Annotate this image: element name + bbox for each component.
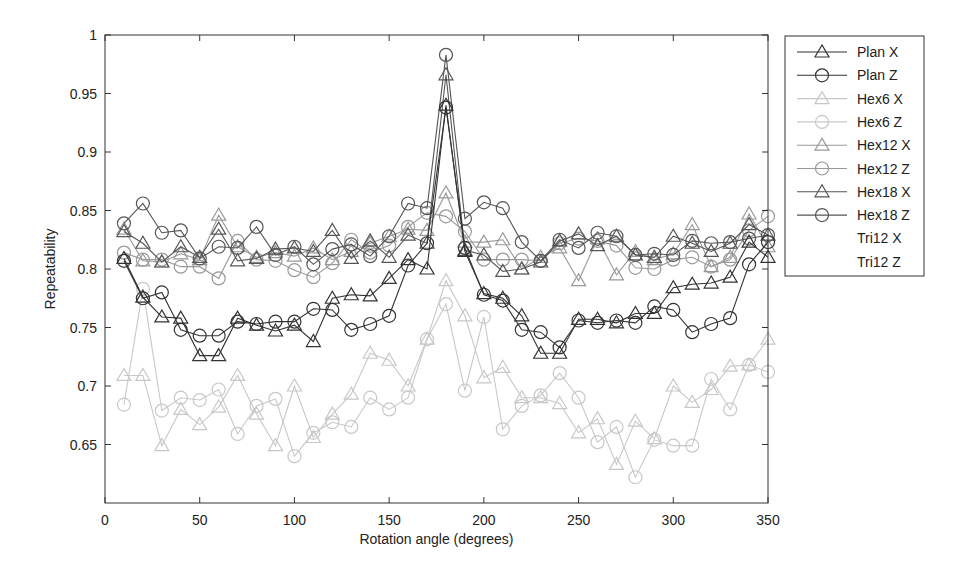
legend-box: [785, 36, 924, 276]
y-tick-label: 0.9: [78, 144, 98, 160]
triangle-marker: [628, 414, 642, 426]
triangle-marker: [685, 277, 699, 289]
legend-item: Tri12 Z: [857, 254, 901, 270]
triangle-marker: [666, 379, 680, 391]
triangle-marker: [136, 368, 150, 380]
y-axis-label: Repeatability: [42, 229, 58, 310]
legend-label: Tri12 X: [857, 230, 902, 246]
triangle-marker: [363, 346, 377, 358]
legend-label: Hex12 X: [857, 137, 911, 153]
series-line: [124, 75, 768, 272]
triangle-marker: [344, 288, 358, 300]
x-axis: 050100150200250300350: [101, 35, 780, 528]
x-tick-label: 100: [283, 512, 307, 528]
legend-label: Hex6 Z: [857, 114, 903, 130]
x-tick-label: 350: [756, 512, 780, 528]
triangle-marker: [685, 395, 699, 407]
triangle-marker: [534, 391, 548, 403]
triangle-marker: [325, 223, 339, 235]
triangle-marker: [496, 233, 510, 245]
triangle-marker: [685, 236, 699, 248]
legend: Plan XPlan ZHex6 XHex6 ZHex12 XHex12 ZHe…: [785, 36, 924, 276]
legend-label: Hex12 Z: [857, 161, 910, 177]
triangle-marker: [742, 358, 756, 370]
x-tick-label: 250: [567, 512, 591, 528]
y-tick-label: 0.8: [78, 261, 98, 277]
y-tick-label: 1: [89, 27, 97, 43]
y-tick-label: 0.7: [78, 378, 98, 394]
y-tick-label: 0.65: [70, 437, 97, 453]
legend-label: Plan Z: [857, 67, 898, 83]
triangle-marker: [136, 236, 150, 248]
y-tick-label: 0.95: [70, 86, 97, 102]
series-line: [124, 108, 768, 348]
x-tick-label: 150: [377, 512, 401, 528]
series-line: [124, 281, 768, 465]
legend-label: Hex18 X: [857, 184, 911, 200]
x-tick-label: 300: [662, 512, 686, 528]
series-hex12-x: [117, 186, 775, 286]
series-line: [124, 193, 768, 281]
legend-label: Tri12 Z: [857, 254, 901, 270]
line-chart: 050100150200250300350 0.650.70.750.80.85…: [0, 0, 960, 566]
triangle-marker: [666, 229, 680, 241]
y-tick-label: 0.85: [70, 203, 97, 219]
series-layer: [117, 48, 775, 483]
legend-item: Tri12 X: [857, 230, 902, 246]
legend-label: Plan X: [857, 44, 899, 60]
series-plan-x: [117, 98, 775, 360]
x-tick-label: 50: [192, 512, 208, 528]
legend-label: Hex6 X: [857, 91, 904, 107]
x-axis-label: Rotation angle (degrees): [359, 531, 513, 547]
triangle-marker: [723, 359, 737, 371]
x-tick-label: 0: [101, 512, 109, 528]
y-tick-label: 0.75: [70, 320, 97, 336]
x-tick-label: 200: [472, 512, 496, 528]
triangle-marker: [382, 353, 396, 365]
legend-label: Hex18 Z: [857, 207, 910, 223]
series-line: [124, 105, 768, 355]
